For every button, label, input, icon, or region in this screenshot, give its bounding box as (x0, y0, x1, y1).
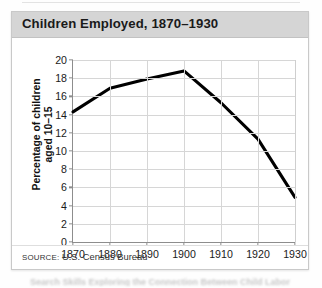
chart-figure: Children Employed, 1870–1930 Percentage … (11, 11, 309, 270)
y-tick-mark (69, 169, 73, 170)
y-axis-title-line-1: Percentage of children (31, 59, 43, 209)
y-tick-label: 16 (55, 90, 67, 102)
y-tick-label: 20 (55, 54, 67, 66)
y-tick-mark (69, 205, 73, 206)
screenshot-root: Children Employed, 1870–1930 Percentage … (0, 0, 322, 288)
chart-plot-region: Percentage of children aged 10–15 024681… (12, 38, 308, 270)
x-gridline (147, 60, 148, 242)
source-text: U.S. Census Bureau (62, 251, 147, 262)
y-tick-mark (69, 223, 73, 224)
y-tick-label: 4 (61, 200, 67, 212)
y-tick-mark (69, 132, 73, 133)
y-tick-mark (69, 187, 73, 188)
y-axis-title-line-2: aged 10–15 (43, 59, 55, 209)
y-tick-label: 12 (55, 127, 67, 139)
y-tick-label: 0 (61, 236, 67, 248)
y-tick-mark (69, 78, 73, 79)
y-tick-label: 2 (61, 218, 67, 230)
page-top-divider (22, 2, 300, 3)
y-tick-mark (69, 59, 73, 60)
y-tick-label: 6 (61, 181, 67, 193)
caption-fragment: Search Skills Exploring the Connection B… (30, 277, 292, 286)
x-tick-label: 1900 (172, 248, 196, 260)
source-label: SOURCE: (22, 253, 59, 262)
source-divider (12, 245, 308, 246)
y-tick-label: 18 (55, 72, 67, 84)
y-tick-label: 10 (55, 145, 67, 157)
x-tick-label: 1920 (246, 248, 270, 260)
x-gridline (184, 60, 185, 242)
x-tick-label: 1930 (283, 248, 307, 260)
x-tick-label: 1910 (209, 248, 233, 260)
x-gridline (295, 60, 296, 242)
y-axis-title: Percentage of children aged 10–15 (31, 59, 56, 209)
x-gridline (221, 60, 222, 242)
y-tick-mark (69, 150, 73, 151)
y-tick-label: 14 (55, 109, 67, 121)
y-tick-label: 8 (61, 163, 67, 175)
y-tick-mark (69, 96, 73, 97)
plot-area: 0246810121416182018701880189019001910192… (72, 60, 295, 243)
source-note: SOURCE: U.S. Census Bureau (22, 251, 147, 262)
y-tick-mark (69, 114, 73, 115)
x-gridline (110, 60, 111, 242)
x-gridline (258, 60, 259, 242)
chart-title: Children Employed, 1870–1930 (22, 16, 218, 31)
